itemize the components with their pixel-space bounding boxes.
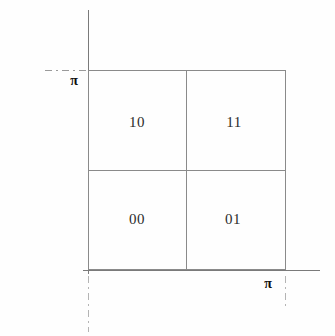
y-pi-guideline (45, 70, 89, 71)
cell-label-10: 10 (129, 115, 145, 130)
x-pi-guideline (285, 276, 286, 306)
x-axis-pi-label: π (264, 277, 272, 291)
y-axis-pi-label: π (70, 74, 78, 88)
square-bottom-edge (88, 269, 286, 270)
cell-label-00: 00 (129, 212, 145, 227)
origin-lower-guideline (88, 276, 89, 332)
x-axis (83, 270, 320, 271)
cell-label-01: 01 (225, 212, 241, 227)
cell-label-11: 11 (226, 115, 241, 130)
partition-diagram-figure: 10 11 00 01 π π (0, 0, 335, 336)
